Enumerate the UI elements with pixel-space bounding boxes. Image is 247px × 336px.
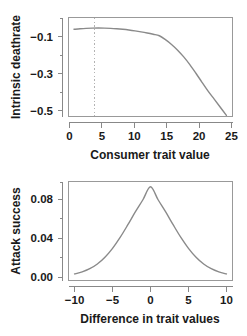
x-tick-label: 25 [225,130,238,142]
figure-two-panel-plot: −0.1 −0.3 −0.5 0 5 10 15 20 25 Consumer … [0,0,247,336]
data-curve-attack-success [75,187,227,274]
x-tick-label: 15 [160,130,173,142]
x-tick-label: 0 [66,130,72,142]
x-tick-label: −10 [65,294,85,306]
x-axis-title-bottom: Difference in trait values [80,312,220,326]
y-axis-title-top: Intrinsic deathrate [9,15,23,119]
x-axis-title-top: Consumer trait value [90,148,210,162]
y-tick-label: −0.1 [30,31,53,43]
x-tick-label: 10 [128,130,141,142]
y-tick-label: 0.00 [31,271,53,283]
y-axis-title-bottom: Attack success [9,187,23,275]
y-tick-label: 0.08 [31,193,54,205]
chart-attack-success: 0.08 0.04 0.00 −10 −5 0 5 10 Difference … [0,168,247,336]
y-tick-label: −0.5 [30,105,53,117]
y-tick-label: 0.04 [31,232,54,244]
x-tick-label: 0 [147,294,153,306]
y-tick-label: −0.3 [30,68,53,80]
plot-box-top [69,18,233,117]
x-tick-label: 5 [185,294,192,306]
x-tick-label: 10 [220,294,233,306]
x-tick-label: 20 [193,130,206,142]
chart-intrinsic-deathrate: −0.1 −0.3 −0.5 0 5 10 15 20 25 Consumer … [0,0,247,168]
x-tick-label: 5 [99,130,106,142]
x-tick-label: −5 [106,294,120,306]
plot-box-bottom [69,182,233,281]
data-curve-intrinsic-deathrate [74,28,226,115]
